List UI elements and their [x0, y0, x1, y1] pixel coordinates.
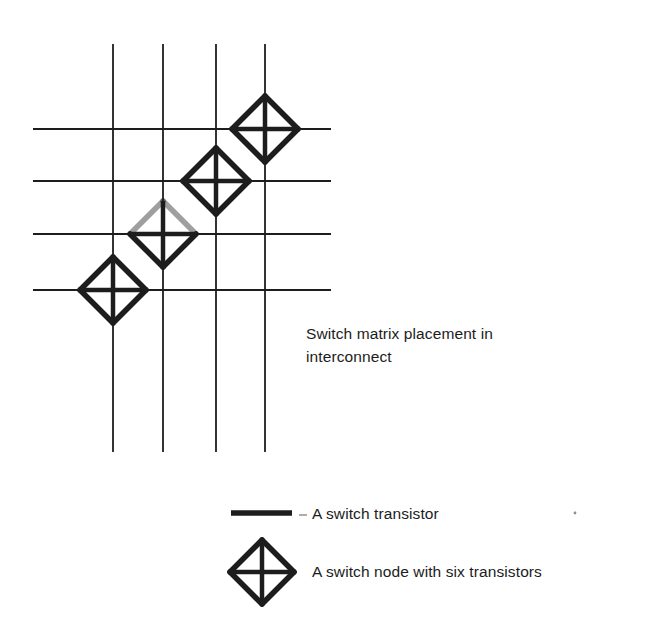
diamond-edge-se — [265, 129, 298, 162]
diamond-edge-nw — [183, 148, 216, 181]
diamond-edge-nw — [80, 257, 113, 290]
diamond-edge-ne — [216, 148, 249, 181]
diamond-edge-sw — [230, 572, 262, 604]
legend-diamond-switch-node-icon — [230, 540, 294, 604]
diamond-edge-ne — [113, 257, 146, 290]
switch-matrix-figure: Switch matrix placement in interconnect … — [0, 0, 655, 644]
diamond-edge-nw — [230, 540, 262, 572]
switch-node-4 — [80, 257, 146, 323]
diamond-edge-se — [216, 181, 249, 214]
diamond-edge-sw — [183, 181, 216, 214]
diamond-edge-nw — [130, 201, 163, 234]
scan-speck — [574, 512, 577, 515]
caption-line-2: interconnect — [306, 345, 576, 368]
diamond-edge-se — [262, 572, 294, 604]
diamond-edge-ne — [163, 201, 196, 234]
switch-node-3 — [130, 201, 196, 267]
legend-label-switch-node: A switch node with six transistors — [312, 562, 542, 582]
switch-node-1 — [232, 96, 298, 162]
figure-caption: Switch matrix placement in interconnect — [306, 322, 576, 368]
switch-node-2 — [183, 148, 249, 214]
diamond-edge-se — [113, 290, 146, 323]
diamond-edge-nw — [232, 96, 265, 129]
legend-label-switch-transistor: A switch transistor — [312, 504, 439, 524]
diamond-edge-ne — [265, 96, 298, 129]
legend-glyph-layer — [230, 513, 294, 604]
diamond-edge-sw — [232, 129, 265, 162]
diamond-edge-sw — [130, 234, 163, 267]
caption-line-1: Switch matrix placement in — [306, 322, 576, 345]
diamond-edge-ne — [262, 540, 294, 572]
diamond-edge-sw — [80, 290, 113, 323]
diamond-edge-se — [163, 234, 196, 267]
